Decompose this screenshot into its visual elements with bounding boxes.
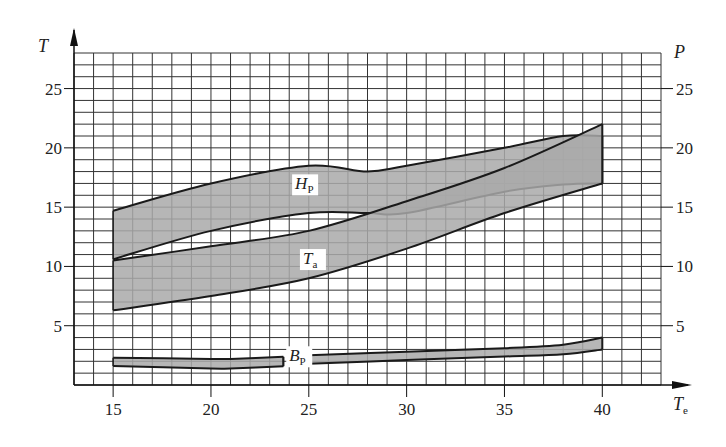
x-tick-label: 15 bbox=[105, 400, 122, 419]
y-axis-arrow-icon bbox=[70, 28, 78, 46]
y-tick-label-left: 20 bbox=[45, 139, 62, 158]
x-tick-label: 30 bbox=[398, 400, 415, 419]
x-tick-label: 35 bbox=[496, 400, 513, 419]
y-tick-label-left: 5 bbox=[54, 317, 63, 336]
bands bbox=[113, 124, 602, 369]
y-axis-title-left: T bbox=[38, 36, 50, 56]
x-tick-label: 20 bbox=[202, 400, 219, 419]
band-bp-a-upper-edge bbox=[113, 357, 283, 359]
chart: HPTaBP510152025510152025152025303540TPTe bbox=[0, 0, 726, 447]
y-tick-label-right: 25 bbox=[676, 80, 693, 99]
y-tick-label-right: 10 bbox=[676, 257, 693, 276]
y-tick-label-left: 25 bbox=[45, 80, 62, 99]
y-tick-label-right: 5 bbox=[676, 317, 685, 336]
x-tick-label: 40 bbox=[594, 400, 611, 419]
x-tick-label: 25 bbox=[300, 400, 317, 419]
y-tick-label-left: 15 bbox=[45, 198, 62, 217]
y-tick-label-right: 20 bbox=[676, 139, 693, 158]
y-tick-label-left: 10 bbox=[45, 257, 62, 276]
x-axis-title: Te bbox=[673, 394, 688, 416]
y-axis-title-right: P bbox=[673, 42, 685, 62]
y-tick-label-right: 15 bbox=[676, 198, 693, 217]
x-axis-arrow-icon bbox=[672, 381, 692, 389]
